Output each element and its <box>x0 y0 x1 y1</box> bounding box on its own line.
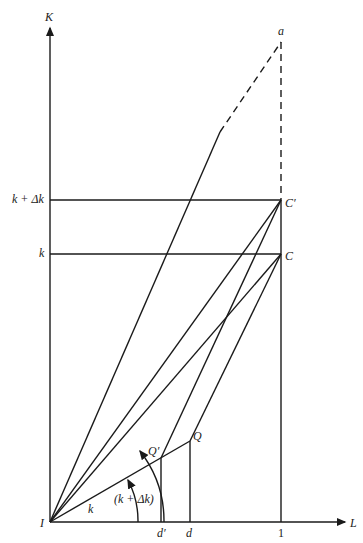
l-axis-label: L <box>349 516 357 530</box>
point-q: Q <box>193 429 202 443</box>
dashed-ray-to-a <box>220 42 281 132</box>
q-to-c <box>190 254 281 441</box>
q-prime-to-c-prime <box>161 200 281 458</box>
ray-to-a <box>50 132 220 522</box>
tick-k: k <box>39 246 45 260</box>
point-q-prime: Q′ <box>148 444 160 458</box>
tick-k-plus-dk: k + Δk <box>12 192 44 206</box>
ray-to-q <box>50 441 190 522</box>
production-diagram: K L I k + Δk k d′ d 1 a C′ C Q′ Q k (k +… <box>0 0 363 543</box>
point-a: a <box>278 24 284 38</box>
angle-k-label: k <box>88 502 94 516</box>
point-c-prime: C′ <box>285 196 296 210</box>
tick-one: 1 <box>278 526 284 540</box>
ray-to-c <box>50 254 281 522</box>
angle-k-plus-dk-label: (k + Δk) <box>114 492 154 506</box>
k-axis-label: K <box>44 10 54 24</box>
tick-d-prime: d′ <box>157 526 166 540</box>
tick-d: d <box>186 526 193 540</box>
origin-label: I <box>39 516 45 530</box>
point-c: C <box>285 249 294 263</box>
ray-to-c-prime <box>50 200 281 522</box>
